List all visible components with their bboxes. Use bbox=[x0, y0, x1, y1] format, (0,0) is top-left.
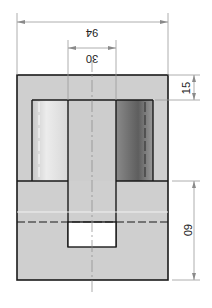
dim-label-15: 15 bbox=[180, 82, 192, 94]
upper-cavity bbox=[17, 100, 168, 181]
dim-label-60: 60 bbox=[182, 224, 194, 236]
dim-label-94: 94 bbox=[86, 27, 98, 39]
dim-label-30: 30 bbox=[86, 53, 98, 65]
technical-drawing: 94 30 15 60 bbox=[0, 0, 212, 308]
dimension-lower-height: 60 bbox=[172, 181, 200, 280]
